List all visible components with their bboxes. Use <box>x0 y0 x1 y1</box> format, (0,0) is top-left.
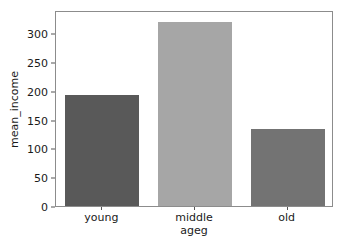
y-tick-label: 100 <box>27 143 48 156</box>
bar-old <box>251 129 325 206</box>
bar-young <box>65 95 139 206</box>
x-tick-label: young <box>84 211 118 224</box>
x-tick-label: middle <box>175 211 213 224</box>
plot-area <box>55 11 333 207</box>
bar-chart-figure: mean_income 050100150200250300 youngmidd… <box>0 0 353 252</box>
y-tick-label: 200 <box>27 85 48 98</box>
x-tick-label: old <box>278 211 295 224</box>
x-axis-label: ageg <box>55 224 333 237</box>
bar-series <box>56 12 332 206</box>
y-tick-label: 0 <box>41 201 48 214</box>
y-tick-label: 250 <box>27 56 48 69</box>
x-tick-mark <box>101 207 102 210</box>
bar-middle <box>158 22 232 206</box>
y-axis-ticks: 050100150200250300 <box>0 0 60 252</box>
x-tick-mark <box>287 207 288 210</box>
y-tick-label: 150 <box>27 114 48 127</box>
x-tick-mark <box>194 207 195 210</box>
y-tick-label: 300 <box>27 28 48 41</box>
y-tick-label: 50 <box>34 172 48 185</box>
